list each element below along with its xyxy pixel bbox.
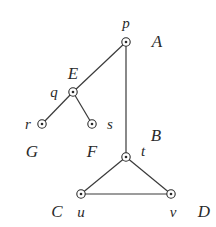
edge-t-v [126, 157, 171, 194]
node-r [38, 120, 46, 128]
graph-diagram: pAqErGsFtBuCvD [0, 0, 216, 227]
node-label-s: s [107, 116, 113, 132]
node-center-dot-icon [170, 193, 173, 196]
node-center-dot-icon [72, 91, 75, 94]
edge-t-u [81, 157, 126, 194]
node-u [77, 190, 85, 198]
node-label-q: q [50, 84, 58, 100]
node-v [167, 190, 175, 198]
node-center-dot-icon [41, 123, 44, 126]
labels-group: pAqErGsFtBuCvD [25, 15, 211, 221]
node-center-dot-icon [125, 156, 128, 159]
edge-q-s [73, 92, 92, 124]
edge-p-q [73, 42, 126, 92]
node-name-G: G [26, 142, 38, 161]
node-name-A: A [151, 32, 163, 51]
node-center-dot-icon [91, 123, 94, 126]
node-label-t: t [141, 143, 146, 159]
node-center-dot-icon [125, 41, 128, 44]
node-label-p: p [121, 15, 130, 31]
node-label-u: u [77, 204, 85, 220]
node-t [122, 153, 130, 161]
node-name-C: C [51, 202, 63, 221]
node-name-F: F [86, 142, 98, 161]
node-name-B: B [151, 126, 162, 145]
node-q [69, 88, 77, 96]
node-label-v: v [170, 204, 177, 220]
node-p [122, 38, 130, 46]
node-name-D: D [197, 202, 211, 221]
node-name-E: E [67, 64, 79, 83]
node-center-dot-icon [80, 193, 83, 196]
node-label-r: r [25, 116, 31, 132]
node-s [88, 120, 96, 128]
